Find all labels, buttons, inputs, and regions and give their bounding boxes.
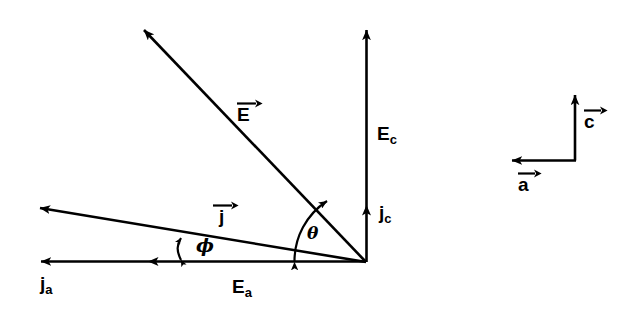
diagram-canvas [0, 0, 639, 309]
label-angle-phi: ϕ [196, 236, 214, 255]
label-E-c-base: E [377, 123, 390, 144]
E-vector-overbar-arrow-icon [237, 94, 263, 103]
vector-E [144, 30, 366, 262]
label-angle-theta: θ [307, 225, 318, 242]
label-inset-a-axis: a [518, 164, 542, 196]
label-j-a-subscript: a [45, 282, 52, 297]
c-axis-overbar-arrow-icon [584, 101, 608, 110]
label-E-c: Ec [377, 124, 397, 143]
angle-phi-arc [178, 238, 181, 260]
label-j-a: ja [40, 274, 53, 293]
j-vector-overbar-arrow-icon [213, 196, 239, 205]
label-inset-c-axis: c [584, 101, 608, 133]
label-E-a-subscript: a [245, 285, 252, 300]
axis-a-horizontal [41, 257, 366, 266]
label-E-a: Ea [232, 277, 252, 296]
phi-arc-path [178, 238, 181, 260]
vector-E-line [144, 30, 366, 262]
crystal-axes-inset [512, 95, 576, 161]
label-j-c-subscript: c [384, 211, 391, 226]
label-j-c: jc [379, 203, 392, 222]
label-E-a-base: E [232, 276, 245, 297]
a-axis-overbar-arrow-icon [518, 164, 542, 173]
label-E-c-subscript: c [390, 132, 397, 147]
axis-c-vertical [362, 30, 371, 262]
label-j-vector: j [213, 196, 239, 228]
vector-diagram-figure: E j Ec jc Ea ja θ ϕ [0, 0, 639, 309]
label-E-vector: E [237, 94, 263, 126]
